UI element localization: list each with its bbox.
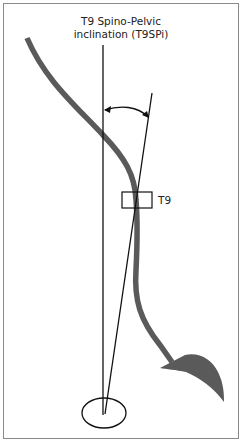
title-line-2: inclination (T9SPi) bbox=[74, 28, 169, 40]
t9-label: T9 bbox=[157, 194, 171, 206]
arc-arrowhead-left bbox=[104, 106, 111, 113]
femoral-head bbox=[82, 398, 126, 428]
spine-curve bbox=[27, 38, 172, 362]
title-line-1: T9 Spino-Pelvic bbox=[80, 15, 161, 27]
angle-arc bbox=[105, 107, 148, 117]
t9spi-diagram: T9 Spino-Pelvic inclination (T9SPi) T9 bbox=[0, 0, 243, 443]
